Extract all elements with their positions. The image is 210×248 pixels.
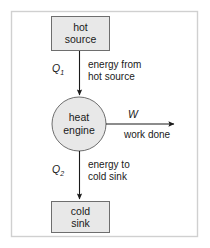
heat-engine-label-line2: engine [63,124,95,136]
q2-subscript: 2 [59,170,64,177]
q1-caption-line2: hot source [88,71,135,82]
cold-sink-label-line1: cold [71,205,90,217]
w-symbol-label: W [128,108,139,120]
q1-symbol: Q [52,62,60,74]
diagram-canvas: hot source Q1 energy from hot source hea… [0,0,210,248]
q2-symbol: Q [52,163,60,175]
hot-source-label-line2: source [65,33,97,45]
heat-engine-label-line1: heat [69,111,90,123]
q2-caption-line2: cold sink [88,171,128,182]
hot-source-label-line1: hot [73,21,88,33]
heat-engine-diagram: hot source Q1 energy from hot source hea… [0,0,210,248]
q1-caption-line1: energy from [88,59,141,70]
w-caption-line1: work done [123,129,171,140]
w-symbol: W [128,108,139,120]
q1-subscript: 1 [60,69,64,76]
cold-sink-label-line2: sink [71,217,90,229]
q2-caption-line1: energy to [88,159,130,170]
